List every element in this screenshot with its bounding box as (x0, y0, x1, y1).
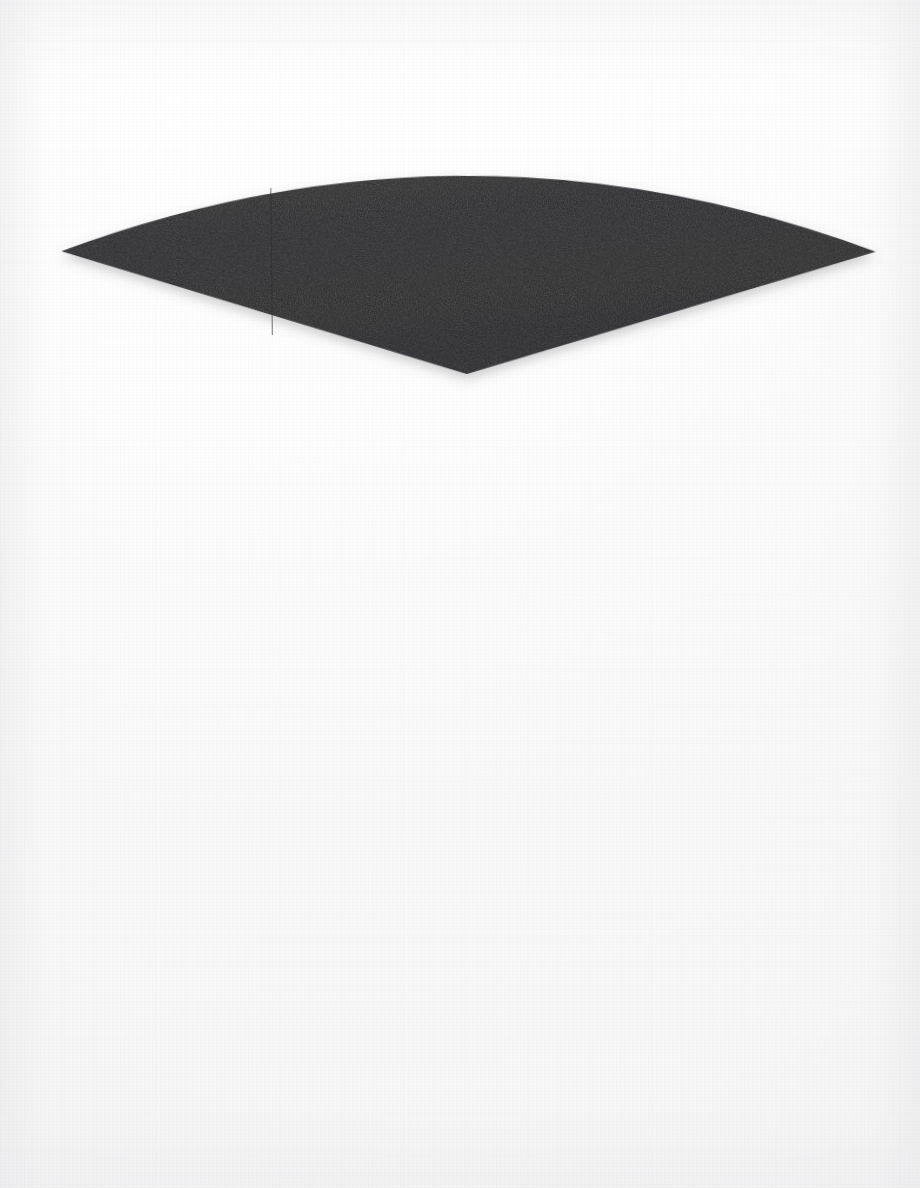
fan-wedge-svg (0, 0, 920, 1188)
fan-wedge-group (0, 95, 920, 425)
artwork-layer (0, 0, 920, 1188)
fan-wedge-grain (0, 95, 920, 425)
fan-wedge-grain-group (0, 95, 920, 425)
artwork-canvas (0, 0, 920, 1188)
